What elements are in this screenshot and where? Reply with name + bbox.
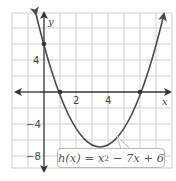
x-axis-label: x bbox=[162, 96, 168, 107]
rhs-terms: − 7x + 6 bbox=[113, 151, 164, 165]
point-x-intercept-1 bbox=[58, 90, 63, 95]
y-tick-4: 4 bbox=[33, 55, 39, 66]
x-tick-2: 2 bbox=[73, 95, 79, 106]
point-x-intercept-6 bbox=[138, 90, 143, 95]
parabola-curve bbox=[36, 14, 164, 147]
y-tick-neg4: −4 bbox=[26, 119, 41, 130]
point-y-intercept bbox=[42, 42, 47, 47]
parabola-curve bbox=[52, 44, 148, 92]
y-tick-neg8: −8 bbox=[26, 151, 41, 162]
y-axis-label: y bbox=[47, 16, 54, 27]
function-label: h(x) = x2 − 7x + 6 bbox=[57, 148, 165, 168]
x-tick-4: 4 bbox=[105, 95, 111, 106]
equals-sign: = bbox=[81, 151, 98, 165]
function-name: h(x) bbox=[58, 151, 81, 165]
